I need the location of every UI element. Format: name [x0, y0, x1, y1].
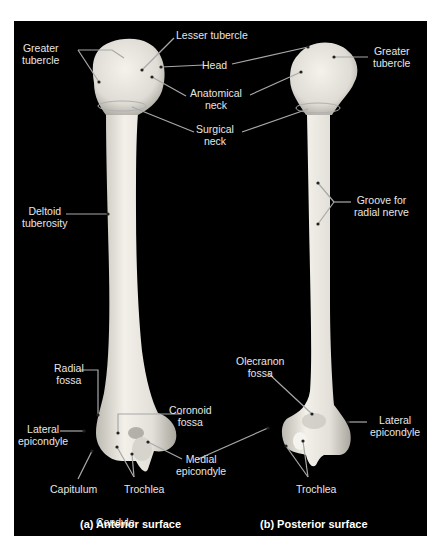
label-head: Head	[202, 59, 227, 71]
label-groove-radial-nerve: Groove for radial nerve	[354, 194, 409, 218]
label-lateral-epicondyle-posterior: Lateral epicondyle	[370, 414, 420, 438]
label-radial-fossa: Radial fossa	[54, 362, 84, 386]
label-anatomical-neck: Anatomical neck	[190, 87, 242, 111]
label-lateral-epicondyle-anterior: Lateral epicondyle	[18, 423, 68, 447]
label-olecranon-fossa: Olecranon fossa	[236, 355, 284, 379]
label-trochlea-anterior: Trochlea	[124, 483, 164, 495]
label-coronoid-fossa: Coronoid fossa	[169, 404, 212, 428]
label-trochlea-posterior: Trochlea	[296, 483, 336, 495]
label-greater-tubercle-posterior: Greater tubercle	[373, 45, 410, 69]
humerus-diagram-panel: Greater tubercle Lesser tubercle Head An…	[14, 21, 427, 536]
label-greater-tubercle-anterior: Greater tubercle	[22, 42, 59, 66]
posterior-humerus	[282, 42, 357, 466]
label-lesser-tubercle: Lesser tubercle	[176, 29, 248, 41]
anterior-humerus	[93, 39, 177, 472]
label-surgical-neck: Surgical neck	[196, 123, 234, 147]
label-medial-epicondyle: Medial epicondyle	[176, 453, 226, 477]
label-capitulum: Capitulum	[50, 483, 97, 495]
caption-posterior: (b) Posterior surface	[260, 518, 368, 530]
label-deltoid-tuberosity: Deltoid tuberosity	[22, 205, 68, 229]
anterior-shaft-shape	[96, 113, 176, 471]
caption-anterior: (a) Anterior surface	[80, 518, 181, 530]
posterior-head-shape	[290, 42, 357, 115]
